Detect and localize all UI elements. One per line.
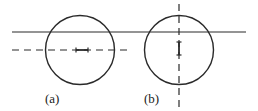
panel-b-label: (b) — [144, 91, 159, 106]
i-marker-vertical — [177, 42, 182, 55]
i-marker-horizontal — [76, 48, 88, 53]
panel-a: (a) — [12, 16, 132, 107]
panel-a-label: (a) — [45, 91, 59, 106]
panel-b: (b) — [144, 4, 214, 108]
diagram-figure: (a) (b) — [0, 0, 258, 111]
